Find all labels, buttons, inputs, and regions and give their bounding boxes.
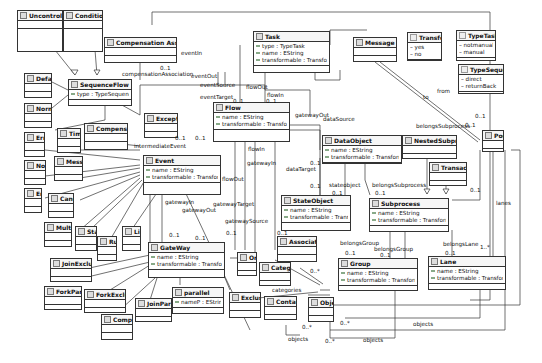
class-operations (403, 154, 456, 158)
class-complex[interactable]: Complex (101, 314, 133, 340)
class-association[interactable]: Association (277, 236, 317, 262)
class-pool[interactable]: Pool (482, 130, 504, 152)
class-event[interactable]: Event name : EString transformable : Tra… (143, 155, 221, 195)
class-rule[interactable]: Rule (97, 236, 117, 261)
label-flowout-mid: flowOut (222, 176, 244, 182)
enum-literal: – yes (410, 44, 439, 51)
class-operations (18, 29, 62, 33)
class-end[interactable]: End (24, 188, 42, 213)
enum-typetask[interactable]: TypeTask – notmanual – manual (456, 30, 496, 61)
class-gateway[interactable]: GateWay name : EString transformable : T… (148, 242, 225, 278)
enum-typesequence[interactable]: TypeSequence – direct – returnBack (458, 64, 504, 94)
class-stateobject[interactable]: StateObject name : EString transformable… (281, 195, 351, 231)
label-eventsource: eventSource (200, 82, 235, 88)
class-operations (25, 92, 51, 96)
class-name: End (36, 190, 41, 197)
class-forkparallel[interactable]: ForkParallel (44, 286, 82, 310)
class-operations (102, 333, 132, 337)
class-object[interactable]: Object (308, 297, 334, 322)
attribute: type : TypeTask (256, 43, 327, 50)
class-subprocess[interactable]: Subprocess name : EString transformable … (369, 198, 449, 232)
class-operations (64, 29, 102, 33)
class-task[interactable]: Task type : TypeTask name : EString tran… (253, 31, 330, 73)
class-error[interactable]: Error (24, 132, 45, 157)
class-transaction[interactable]: Transaction (429, 162, 467, 186)
class-icon (138, 300, 145, 307)
class-message[interactable]: Message (54, 156, 83, 181)
class-name: Or (249, 254, 256, 261)
class-icon (27, 190, 34, 197)
class-multiple[interactable]: Multiple (44, 222, 72, 247)
class-cancel[interactable]: Cancel (48, 193, 74, 218)
class-name: Task (265, 33, 280, 40)
class-category[interactable]: Category (259, 262, 291, 286)
class-container[interactable]: Container (264, 296, 297, 320)
class-name: Group (350, 260, 371, 267)
class-start[interactable]: Start (75, 226, 97, 251)
class-lane[interactable]: Lane name : EString transformable : Tran… (428, 256, 506, 290)
class-link[interactable]: Link (122, 226, 141, 251)
class-icon (71, 81, 78, 88)
label-intermediateevent: intermediateEvent (134, 143, 186, 149)
class-attributes (85, 300, 125, 308)
class-or[interactable]: Or (237, 252, 257, 276)
class-message-flow[interactable]: Message Flow (353, 37, 397, 62)
multiplicity: 0..1 (465, 122, 476, 128)
class-nestedsubprocess[interactable]: NestedSubprocess (402, 135, 457, 159)
attribute: nameP : EString (175, 299, 221, 306)
class-icon (57, 158, 64, 165)
enum-transform[interactable]: Transform – yes – no (407, 32, 442, 61)
class-name: StateObject (293, 197, 333, 204)
enum-literal: – returnBack (461, 83, 501, 90)
class-operations (282, 223, 350, 227)
class-name: Lane (440, 258, 456, 265)
class-exclusive[interactable]: Exclusive (229, 292, 261, 318)
class-compensation-association[interactable]: Compensation Association (104, 37, 177, 63)
label-flowin-mid: flowIn (248, 146, 265, 152)
class-parallel[interactable]: parallel nameP : EString (172, 287, 224, 314)
class-operations (254, 66, 329, 70)
attribute: transformable : Transform (341, 277, 415, 284)
class-attributes (76, 237, 96, 245)
class-normal[interactable]: Normal (24, 103, 52, 128)
multiplicity: 0..1 (195, 235, 206, 241)
class-operations (144, 183, 220, 187)
multiplicity: 0..1 (266, 98, 277, 104)
class-name: Link (134, 228, 140, 235)
enum-literal: – notmanual (459, 42, 493, 49)
class-timer[interactable]: Timer (57, 128, 81, 153)
class-forkexclusive[interactable]: ForkExclusive (84, 289, 126, 313)
class-group[interactable]: Group name : EString transformable : Tra… (338, 258, 418, 291)
class-exception[interactable]: Exception (144, 113, 178, 138)
class-joinparallel[interactable]: JoinParallel (135, 298, 172, 322)
enum-literals: – direct – returnBack (459, 75, 503, 92)
class-joinexclusive[interactable]: JoinExclusive (50, 258, 92, 282)
label-gatewayin-left: gatewayIn (165, 199, 194, 205)
class-icon (66, 12, 73, 19)
class-attributes: name : EString transformable : Transform (144, 166, 220, 183)
class-compensation[interactable]: Compensation (84, 123, 128, 150)
class-icon (325, 137, 332, 144)
class-operations (76, 245, 96, 249)
class-sequenceflow[interactable]: SequenceFlow type : TypeSequence (68, 79, 132, 106)
class-flow[interactable]: Flow name : EString transformable : Tran… (213, 102, 290, 142)
class-icon (311, 299, 318, 306)
class-name: TypeTask (468, 32, 495, 39)
class-icon (284, 197, 291, 204)
class-name: Error (36, 134, 44, 141)
class-default[interactable]: Default (24, 73, 52, 98)
class-none[interactable]: None (24, 160, 46, 185)
class-dataobject[interactable]: DataObject name : EString transformable … (322, 135, 402, 164)
class-operations (429, 284, 505, 288)
class-attributes (403, 146, 456, 154)
class-icon (60, 130, 67, 137)
class-uncontrolled[interactable]: Uncontrolled (17, 10, 63, 52)
class-name: JoinExclusive (62, 260, 91, 267)
attribute: name : EString (284, 207, 348, 214)
class-conditional[interactable]: Conditional (63, 10, 103, 52)
class-icon (87, 291, 94, 298)
label-belongslane: belongsLane (443, 241, 479, 247)
class-attributes (260, 273, 290, 281)
class-operations (145, 132, 177, 136)
class-operations (214, 130, 289, 134)
